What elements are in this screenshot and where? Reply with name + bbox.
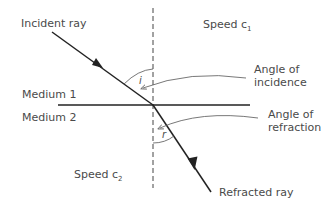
- medium1-label: Medium 1: [22, 88, 76, 101]
- angle-i-symbol: i: [139, 74, 142, 87]
- incidence-pointer: [143, 76, 246, 88]
- angle-r-symbol: r: [162, 128, 166, 141]
- refracted-ray-label: Refracted ray: [219, 186, 293, 199]
- incident-arrowhead: [92, 58, 103, 68]
- refracted-ray: [153, 105, 211, 192]
- angle-incidence-label: Angle ofincidence: [254, 63, 307, 89]
- angle-refraction-label: Angle ofrefraction: [268, 108, 321, 134]
- speed-c1-label: Speed c1: [203, 18, 252, 36]
- refracted-arrowhead: [187, 157, 198, 171]
- speed-c2-label: Speed c2: [74, 168, 123, 186]
- incident-ray-label: Incident ray: [21, 17, 87, 30]
- refraction-diagram: [0, 0, 332, 209]
- medium2-label: Medium 2: [22, 111, 76, 124]
- refraction-pointer: [160, 116, 258, 128]
